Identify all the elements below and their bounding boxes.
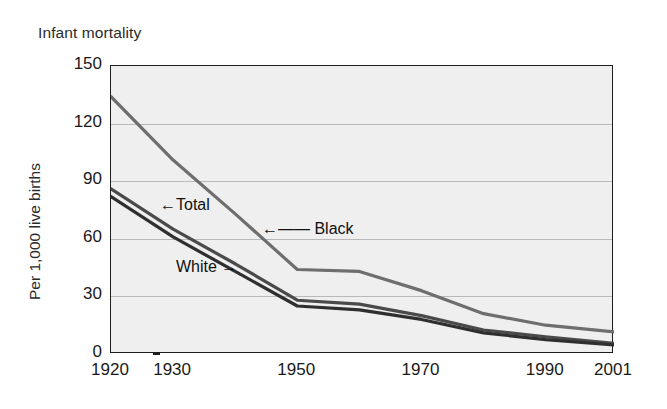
annotation-total: ←Total <box>160 196 210 214</box>
x-tick-label: 2001 <box>594 360 632 380</box>
x-tick-label: 1930 <box>153 360 191 380</box>
x-tick-label: 1950 <box>277 360 315 380</box>
x-tick-label: 1990 <box>526 360 564 380</box>
x-tick-label: 1970 <box>402 360 440 380</box>
infant-mortality-chart: Infant mortality Per 1,000 live births 0… <box>0 0 667 409</box>
annotation-black: ←—— Black <box>262 220 354 238</box>
x-tick-label: 1920 <box>91 360 129 380</box>
series-line-black <box>111 97 614 332</box>
annotation-white: White → <box>176 258 237 276</box>
